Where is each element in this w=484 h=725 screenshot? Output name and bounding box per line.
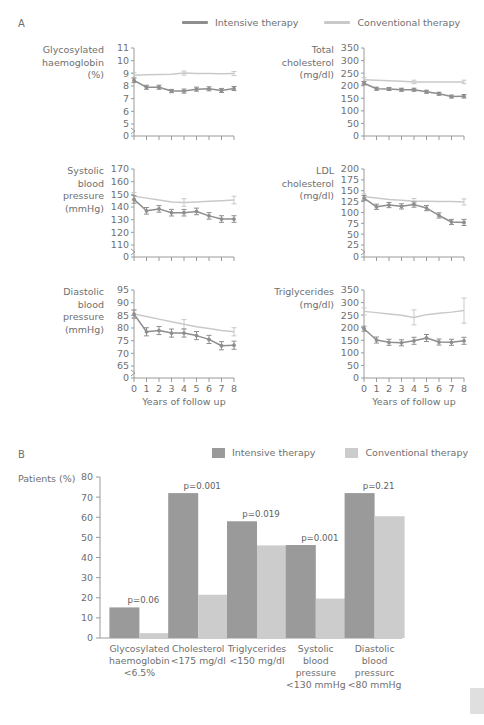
bar-axis-y-tick: 70 [81,492,93,503]
legend-label-conventional: Conventional therapy [357,17,460,28]
data-point [412,203,416,207]
data-point [145,85,149,89]
data-point [195,210,199,214]
axis-y-tick: 140 [111,201,129,212]
axis-x-caption: Years of follow up [371,396,455,407]
bar-axis-y-tick: 20 [81,592,93,603]
axis-y-tick: 80 [117,322,129,333]
data-point [387,340,391,344]
data-point [450,95,454,99]
axis-x-tick: 5 [193,383,199,394]
data-point [145,330,149,334]
data-point [425,206,429,210]
bar-category-label: Systolic [298,643,334,654]
data-point [132,312,136,316]
axis-y-label: Systolic blood pressure (mmHg) [4,165,108,215]
axis-y-tick: 0 [353,251,359,262]
axis-y-tick: 7 [123,93,129,104]
chart-diastolic-blood-pressure: Diastolic blood pressure (mmHg)065707580… [108,286,240,408]
axis-x-tick: 3 [398,383,404,394]
axis-y-tick: 50 [347,360,359,371]
p-value-annotation: p=0.06 [128,595,160,605]
p-value-annotation: p=0.21 [363,481,395,491]
chart-total-cholesterol: Total cholesterol (mg/dl)050100150200250… [338,44,470,150]
axis-y-tick: 150 [341,93,359,104]
bar-category-label: Triglycerides [227,643,287,654]
axis-y-tick: 9 [123,68,129,79]
data-point [195,334,199,338]
legend-line-conventional-icon [324,21,350,24]
chart-triglycerides: Triglycerides (mg/dl)0501001502002503003… [338,286,470,408]
axis-x-tick: 4 [181,383,187,394]
axis-y-tick: 0 [123,251,129,262]
axis-y-tick: 8 [123,80,129,91]
bar-conventional [316,599,346,638]
axis-y-tick: 10 [117,55,129,66]
data-point [182,89,186,93]
page-edge-artifact [470,688,484,714]
axis-y-tick: 200 [341,322,359,333]
data-point [462,221,466,225]
data-point [220,217,224,221]
axis-x-tick: 7 [448,383,454,394]
axis-y-label: Triglycerides (mg/dl) [234,286,338,311]
legend-item-conventional: Conventional therapy [324,17,460,28]
axis-y-tick: 300 [341,297,359,308]
data-point [145,209,149,213]
data-point [375,87,379,91]
data-point [387,203,391,207]
axis-y-tick: 300 [341,55,359,66]
plot-area: 065707580859095012345678Years of follow … [108,286,240,408]
axis-y-tick: 170 [111,165,129,174]
bar-conventional [375,516,405,638]
axis-x-tick: 7 [218,383,224,394]
bar-conventional [257,545,287,638]
plot-area: 0255075100125150175200 [338,165,470,271]
data-point [437,92,441,96]
plot-area: 0110120130140150160170 [108,165,240,271]
bar-intensive [168,493,198,638]
data-point [157,329,161,333]
bar-intensive [227,521,257,638]
data-point [182,331,186,335]
axis-y-tick: 100 [341,207,359,218]
plot-area: 050100150200250300350 [338,44,470,150]
axis-y-tick: 0 [353,372,359,383]
axis-y-tick: 70 [117,348,129,359]
axis-y-tick: 0 [353,130,359,141]
axis-x-caption: Years of follow up [141,396,225,407]
axis-y-tick: 75 [347,218,359,229]
axis-y-tick: 11 [117,44,129,53]
bar-category-label: blood [362,655,388,666]
axis-x-tick: 3 [168,383,174,394]
axis-y-tick: 250 [341,68,359,79]
data-point [400,341,404,345]
axis-x-tick: 8 [461,383,467,394]
data-point [157,85,161,89]
axis-y-tick: 0 [123,130,129,141]
axis-y-tick: 75 [117,335,129,346]
axis-y-tick: 0 [123,372,129,383]
data-point [462,94,466,98]
bar-axis-y-tick: 0 [87,632,93,643]
axis-x-tick: 4 [411,383,417,394]
axis-y-tick: 125 [341,196,359,207]
axis-y-label: Diastolic blood pressure (mmHg) [4,286,108,336]
axis-y-tick: 65 [117,360,129,371]
axis-y-tick: 90 [117,297,129,308]
axis-y-tick: 95 [117,286,129,295]
data-point [195,87,199,91]
axis-y-tick: 175 [341,174,359,185]
bar-axis-y-tick: 60 [81,512,93,523]
axis-x-tick: 1 [143,383,149,394]
axis-x-tick: 0 [361,383,367,394]
axis-y-tick: 250 [341,310,359,321]
legend-label-intensive-b: Intensive therapy [232,447,315,458]
axis-x-tick: 8 [231,383,237,394]
data-point [170,89,174,93]
data-point [362,196,366,200]
plot-area: 0567891011 [108,44,240,150]
bar-category-label: <80 mmHg [348,679,402,690]
axis-y-tick: 130 [111,214,129,225]
data-point [437,340,441,344]
